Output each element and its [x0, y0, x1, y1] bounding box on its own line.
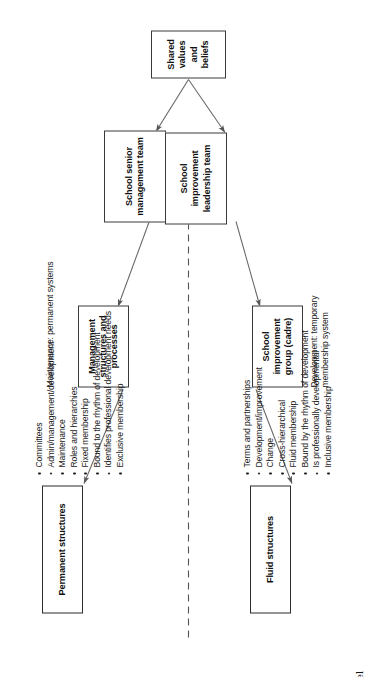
- bullet-dot-icon: [315, 472, 318, 475]
- bullet-dot-icon: [61, 472, 64, 475]
- list-item: Development/improvement: [253, 225, 265, 475]
- list-item: Roles and hierarchies: [68, 225, 80, 475]
- list-item: Committees: [34, 225, 46, 475]
- list-item: Identifies professional development need…: [103, 225, 115, 475]
- list-item: Exclusive membership: [114, 225, 126, 475]
- note-development: Development: temporary membership system: [309, 275, 332, 387]
- box-school-senior-management-team[interactable]: School senior management team: [104, 130, 166, 222]
- bullet-dot-icon: [84, 472, 87, 475]
- note-maintenance: Maintenance: permanent systems: [45, 237, 56, 387]
- list-item: Maintenance: [57, 225, 69, 475]
- bullet-dot-icon: [72, 472, 75, 475]
- box-shared-values-and-beliefs[interactable]: Shared values and beliefs: [151, 30, 226, 78]
- bullet-dot-icon: [280, 472, 283, 475]
- arrow-values-to-leadership-team: [188, 79, 225, 132]
- box-permanent-structures[interactable]: Permanent structures: [42, 485, 83, 613]
- box-fluid-structures[interactable]: Fluid structures: [250, 485, 291, 613]
- list-item: Fixed membership: [80, 225, 92, 475]
- bullet-dot-icon: [257, 472, 260, 475]
- list-item: Cross-hierarchical: [276, 225, 288, 475]
- arrow-values-to-senior-team: [156, 79, 189, 131]
- bullet-dot-icon: [96, 472, 99, 475]
- list-item: Terms and partnerships: [242, 225, 254, 475]
- bullet-dot-icon: [292, 472, 295, 475]
- bullet-dot-icon: [119, 472, 122, 475]
- box-school-senior-management-team-label: School senior management team: [123, 134, 145, 218]
- list-item: Bound to the rhythm of development: [91, 225, 103, 475]
- list-item: Change: [265, 225, 277, 475]
- box-school-improvement-leadership-team[interactable]: School improvement leadership team: [165, 132, 227, 224]
- figure-caption: FIGURE 7.4Maintenance and development: a…: [345, 671, 365, 677]
- box-permanent-structures-label: Permanent structures: [56, 503, 67, 595]
- box-shared-values-and-beliefs-label: Shared values and beliefs: [166, 34, 211, 74]
- bullet-dot-icon: [49, 472, 52, 475]
- diagram-canvas: Permanent structures Fluid structures Ma…: [28, 26, 346, 651]
- bullet-dot-icon: [327, 472, 330, 475]
- figure-caption-text: Maintenance and development: a model: [354, 671, 365, 677]
- bullet-dot-icon: [246, 472, 249, 475]
- bullet-dot-icon: [269, 472, 272, 475]
- list-item: Fluid membership: [288, 225, 300, 475]
- bullet-dot-icon: [38, 472, 41, 475]
- box-school-improvement-leadership-team-label: School improvement leadership team: [179, 136, 213, 220]
- figure-page: Permanent structures Fluid structures Ma…: [0, 0, 373, 677]
- bullet-dot-icon: [304, 472, 307, 475]
- box-fluid-structures-label: Fluid structures: [264, 515, 275, 582]
- bullet-dot-icon: [107, 472, 110, 475]
